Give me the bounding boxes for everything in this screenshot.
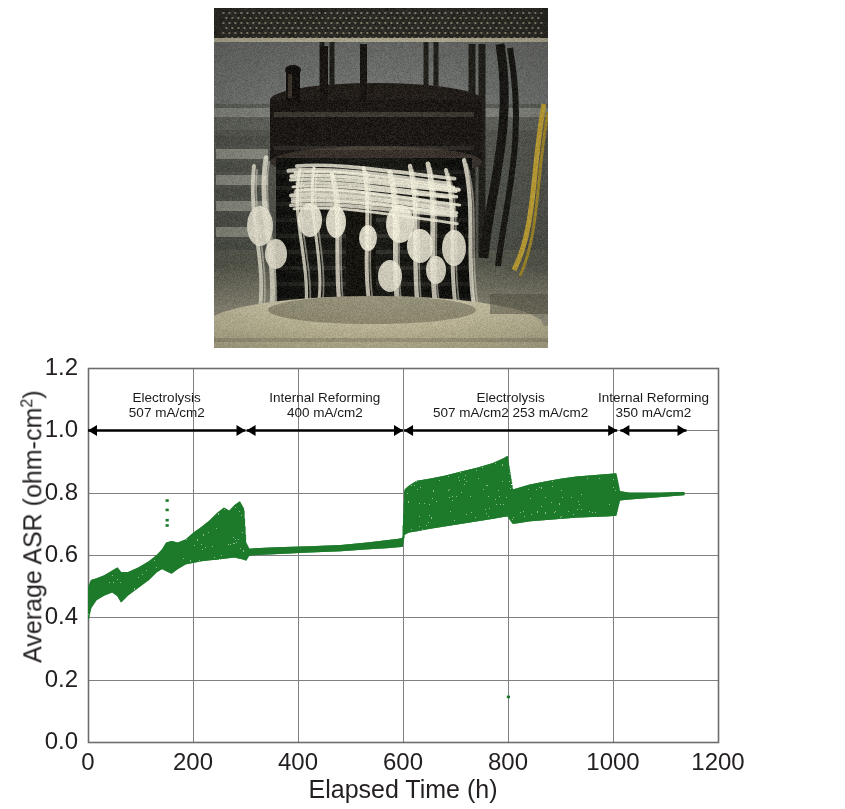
figure-container: Average ASR (ohm-cm2) Elapsed Time (h) 0… — [0, 0, 845, 809]
stack-test-rig-photograph — [214, 8, 548, 348]
x-tick-label: 1000 — [568, 748, 658, 776]
y-tick-label: 1.2 — [8, 353, 78, 381]
x-tick-label: 1200 — [673, 748, 763, 776]
phase-current-phase-4: 350 mA/cm2 — [573, 405, 733, 420]
y-tick-label: 0.2 — [8, 665, 78, 693]
x-tick-label: 0 — [43, 748, 133, 776]
y-tick-label: 0.6 — [8, 540, 78, 568]
photograph-canvas — [214, 8, 548, 348]
x-tick-label: 600 — [358, 748, 448, 776]
phase-label-phase-4: Internal Reforming — [573, 390, 733, 405]
x-axis-title: Elapsed Time (h) — [88, 775, 718, 804]
x-tick-label: 200 — [148, 748, 238, 776]
y-tick-label: 0.4 — [8, 602, 78, 630]
x-tick-label: 400 — [253, 748, 343, 776]
y-tick-label: 0.8 — [8, 478, 78, 506]
x-tick-label: 800 — [463, 748, 553, 776]
asr-vs-time-chart: Average ASR (ohm-cm2) Elapsed Time (h) 0… — [0, 350, 845, 809]
